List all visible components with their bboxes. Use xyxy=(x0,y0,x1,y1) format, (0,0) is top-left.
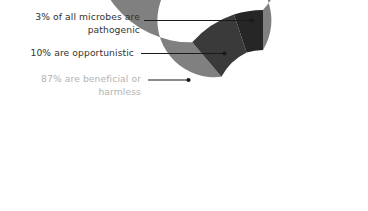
slice-label-opportunistic: 10% are opportunistic xyxy=(6,47,134,60)
slice-label-pathogenic: 3% of all microbes are pathogenic xyxy=(6,11,140,36)
leader-dot-beneficial xyxy=(186,78,190,82)
leader-line-beneficial xyxy=(148,78,191,82)
donut-chart: 3% of all microbes are pathogenic 10% ar… xyxy=(0,0,368,211)
leader-dot-pathogenic xyxy=(249,18,253,22)
slice-label-beneficial: 87% are beneficial or harmless xyxy=(6,73,141,98)
leader-dot-opportunistic xyxy=(222,51,226,55)
